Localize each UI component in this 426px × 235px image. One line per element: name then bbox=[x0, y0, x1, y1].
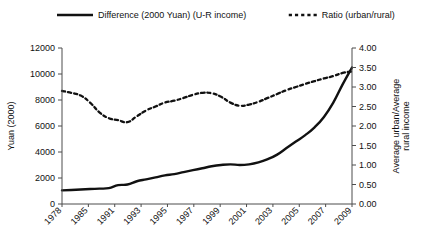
x-axis-tick-label: 2007 bbox=[306, 205, 327, 226]
legend-label-0: Difference (2000 Yuan) (U-R income) bbox=[98, 10, 246, 20]
series-difference bbox=[62, 68, 352, 191]
y-axis-tick-label: 8000 bbox=[35, 95, 55, 105]
line-chart: Difference (2000 Yuan) (U-R income)Ratio… bbox=[0, 0, 426, 235]
y-axis-title: Yuan (2000) bbox=[6, 101, 16, 150]
y-axis-tick-label: 6000 bbox=[35, 121, 55, 131]
x-axis-tick-label: 1997 bbox=[174, 205, 195, 226]
plot-frame bbox=[62, 48, 352, 204]
x-axis-tick-label: 1999 bbox=[200, 205, 221, 226]
chart-legend: Difference (2000 Yuan) (U-R income)Ratio… bbox=[57, 10, 395, 20]
x-axis-tick-label: 1993 bbox=[121, 205, 142, 226]
x-axis-tick-label: 2003 bbox=[253, 205, 274, 226]
y2-axis-tick-label: 1.50 bbox=[359, 141, 377, 151]
x-axis-tick-label: 2009 bbox=[332, 205, 353, 226]
y-axis-tick-label: 2000 bbox=[35, 173, 55, 183]
y2-axis-title: Average urban/Averagerural income bbox=[391, 79, 410, 174]
y2-axis-tick-label: 2.00 bbox=[359, 121, 377, 131]
y2-axis-tick-label: 0.00 bbox=[359, 199, 377, 209]
chart-container: Difference (2000 Yuan) (U-R income)Ratio… bbox=[0, 0, 426, 235]
series-ratio bbox=[62, 71, 352, 122]
x-axis-tick-label: 2005 bbox=[279, 205, 300, 226]
y2-axis-title-line-2: rural income bbox=[401, 101, 411, 151]
legend-label-1: Ratio (urban/rural) bbox=[322, 10, 395, 20]
x-axis-tick-label: 1991 bbox=[95, 205, 116, 226]
x-axis-tick-label: 1985 bbox=[69, 205, 90, 226]
y2-axis-tick-label: 2.50 bbox=[359, 102, 377, 112]
y2-axis-tick-label: 1.00 bbox=[359, 160, 377, 170]
x-axis-tick-label: 1978 bbox=[42, 205, 63, 226]
plot-area bbox=[62, 68, 352, 191]
y-axis-tick-label: 10000 bbox=[30, 69, 55, 79]
x-axis-tick-label: 2001 bbox=[227, 205, 248, 226]
y2-axis-tick-label: 3.50 bbox=[359, 63, 377, 73]
x-axis-tick-label: 1995 bbox=[148, 205, 169, 226]
y2-axis-tick-label: 0.50 bbox=[359, 180, 377, 190]
y-axis-tick-label: 4000 bbox=[35, 147, 55, 157]
y2-axis-tick-label: 4.00 bbox=[359, 43, 377, 53]
y-axis-tick-label: 12000 bbox=[30, 43, 55, 53]
y2-axis-tick-label: 3.00 bbox=[359, 82, 377, 92]
